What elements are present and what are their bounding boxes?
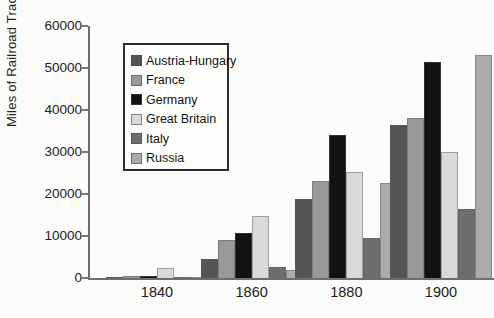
legend-label: Austria-Hungary: [146, 54, 236, 68]
legend-label: Great Britain: [146, 112, 216, 126]
bar-germany: [424, 62, 441, 278]
bar-france: [407, 118, 424, 278]
bar-russia: [475, 55, 492, 278]
x-tick-label: 1840: [106, 284, 208, 300]
bar-great-britain: [252, 216, 269, 278]
y-tick-mark: [82, 193, 88, 195]
legend-swatch: [131, 133, 142, 144]
legend-item: Russia: [131, 149, 227, 169]
legend-item: Italy: [131, 129, 227, 149]
bar-group: [295, 26, 397, 278]
y-tick-label: 60000: [22, 18, 82, 33]
bar-germany: [235, 233, 252, 278]
y-tick-mark: [82, 109, 88, 111]
y-tick-label: 30000: [22, 144, 82, 159]
bar-austria-hungary: [390, 125, 407, 278]
y-tick-mark: [82, 67, 88, 69]
legend-swatch: [131, 114, 142, 125]
y-tick-label: 50000: [22, 60, 82, 75]
bar-group: [390, 26, 492, 278]
legend-item: Great Britain: [131, 110, 227, 130]
bar-italy: [174, 277, 191, 278]
y-tick-mark: [82, 277, 88, 279]
y-tick-mark: [82, 25, 88, 27]
y-tick-label: 10000: [22, 228, 82, 243]
legend-label: France: [146, 73, 185, 87]
legend-swatch: [131, 75, 142, 86]
x-tick-label: 1900: [390, 284, 492, 300]
bar-italy: [458, 209, 475, 278]
y-tick-mark: [82, 235, 88, 237]
y-tick-label: 40000: [22, 102, 82, 117]
bar-austria-hungary: [295, 199, 312, 278]
bar-great-britain: [441, 152, 458, 278]
bar-italy: [269, 267, 286, 278]
bar-germany: [140, 276, 157, 278]
bar-austria-hungary: [201, 259, 218, 278]
legend-item: Austria-Hungary: [131, 51, 227, 71]
bar-france: [312, 181, 329, 278]
legend-label: Germany: [146, 93, 197, 107]
bar-germany: [329, 135, 346, 278]
bar-france: [218, 240, 235, 278]
railroad-track-chart: Miles of Railroad Track 0100002000030000…: [0, 0, 494, 318]
legend-swatch: [131, 94, 142, 105]
x-tick-label: 1880: [295, 284, 397, 300]
legend-item: France: [131, 71, 227, 91]
bar-great-britain: [157, 268, 174, 278]
legend-swatch: [131, 55, 142, 66]
bar-austria-hungary: [106, 277, 123, 278]
bar-great-britain: [346, 172, 363, 278]
legend: Austria-HungaryFranceGermanyGreat Britai…: [123, 43, 229, 171]
y-tick-mark: [82, 151, 88, 153]
legend-item: Germany: [131, 90, 227, 110]
legend-label: Russia: [146, 151, 184, 165]
legend-swatch: [131, 153, 142, 164]
y-tick-label: 0: [22, 270, 82, 285]
bar-france: [123, 276, 140, 278]
x-tick-label: 1860: [201, 284, 303, 300]
legend-label: Italy: [146, 132, 169, 146]
bar-italy: [363, 238, 380, 278]
y-tick-label: 20000: [22, 186, 82, 201]
